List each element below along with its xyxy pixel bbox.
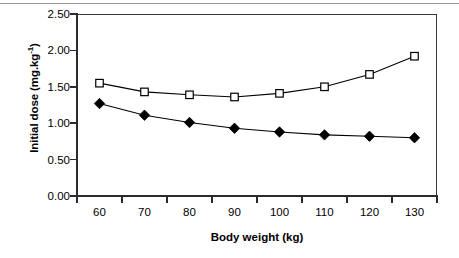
x-tick-label: 110 bbox=[303, 206, 347, 218]
x-tick-label: 80 bbox=[168, 206, 212, 218]
y-tick-label: 2.00 bbox=[30, 44, 70, 56]
x-tick-mark bbox=[256, 196, 258, 203]
x-tick-mark bbox=[436, 196, 438, 203]
plot-area bbox=[76, 14, 437, 196]
y-tick-label: 0.50 bbox=[30, 154, 70, 166]
x-tick-mark bbox=[301, 196, 303, 203]
y-tick-label: 2.50 bbox=[30, 8, 70, 20]
y-axis-spine bbox=[76, 13, 78, 197]
x-axis-title: Body weight (kg) bbox=[76, 231, 438, 243]
x-tick-mark bbox=[76, 196, 78, 203]
y-tick-label: 0.00 bbox=[30, 190, 70, 202]
x-tick-label: 100 bbox=[258, 206, 302, 218]
y-tick-mark bbox=[70, 50, 77, 52]
y-tick-label: 1.00 bbox=[30, 117, 70, 129]
x-tick-mark bbox=[346, 196, 348, 203]
x-tick-label: 90 bbox=[213, 206, 257, 218]
y-tick-label: 1.50 bbox=[30, 81, 70, 93]
x-tick-label: 120 bbox=[348, 206, 392, 218]
chart-figure: Initial dose (mg.kg-1) 0.000.501.001.502… bbox=[0, 0, 459, 258]
y-tick-mark bbox=[70, 122, 77, 124]
y-tick-mark bbox=[70, 13, 77, 15]
y-tick-mark bbox=[70, 159, 77, 161]
x-tick-mark bbox=[121, 196, 123, 203]
x-tick-mark bbox=[391, 196, 393, 203]
x-tick-label: 60 bbox=[78, 206, 122, 218]
x-tick-mark bbox=[166, 196, 168, 203]
x-tick-mark bbox=[211, 196, 213, 203]
y-tick-mark bbox=[70, 86, 77, 88]
x-tick-label: 70 bbox=[123, 206, 167, 218]
x-tick-label: 130 bbox=[393, 206, 437, 218]
y-axis-tick-labels: 0.000.501.001.502.002.50 bbox=[30, 0, 70, 258]
